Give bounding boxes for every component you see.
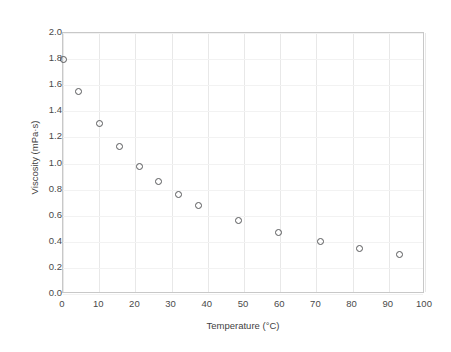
x-tick-label: 40 [187, 299, 227, 309]
chart-figure: 0.00.20.40.60.81.01.21.41.61.82.0 010203… [0, 0, 451, 352]
y-tick-label: 1.0 [22, 158, 62, 168]
x-axis-title: Temperature (°C) [62, 320, 424, 331]
x-axis-tick-labels: 0102030405060708090100 [62, 299, 424, 313]
x-tick-label: 90 [368, 299, 408, 309]
x-tick-label: 20 [114, 299, 154, 309]
y-axis-tick-labels: 0.00.20.40.60.81.01.21.41.61.82.0 [0, 32, 451, 293]
x-tick-label: 30 [151, 299, 191, 309]
y-tick-label: 0.2 [22, 262, 62, 272]
x-tick-label: 80 [332, 299, 372, 309]
y-tick-label: 0.8 [22, 184, 62, 194]
y-tick-label: 0.6 [22, 210, 62, 220]
x-tick-label: 70 [295, 299, 335, 309]
y-tick-label: 1.4 [22, 106, 62, 116]
y-tick-label: 1.6 [22, 79, 62, 89]
y-tick-label: 1.8 [22, 53, 62, 63]
x-tick-label: 100 [404, 299, 444, 309]
x-tick-label: 10 [78, 299, 118, 309]
x-tick-label: 60 [259, 299, 299, 309]
y-tick-label: 0.0 [22, 288, 62, 298]
y-tick-label: 2.0 [22, 27, 62, 37]
y-tick-label: 1.2 [22, 132, 62, 142]
y-tick-label: 0.4 [22, 236, 62, 246]
gridline-horizontal [63, 294, 423, 295]
x-tick-label: 0 [42, 299, 82, 309]
x-tick-label: 50 [223, 299, 263, 309]
y-axis-title: Viscosity (mPa·s) [29, 27, 40, 288]
